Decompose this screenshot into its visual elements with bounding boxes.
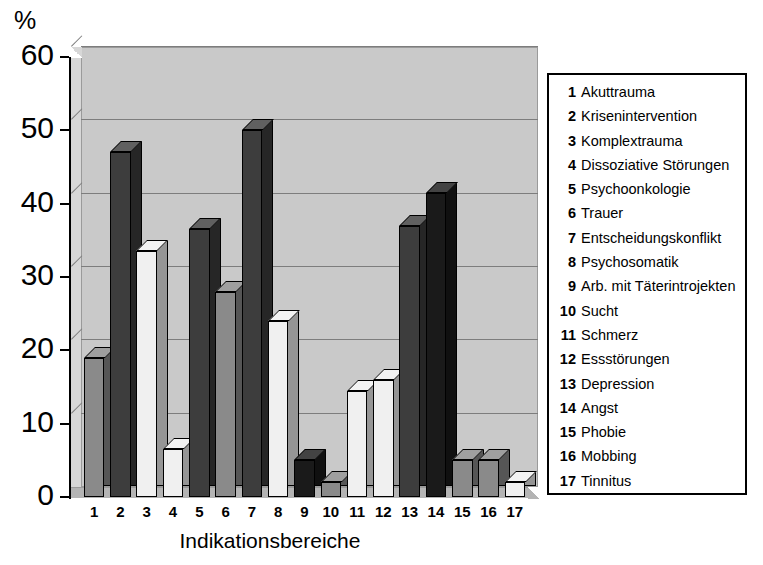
- legend-item-number: 17: [557, 473, 576, 489]
- bar-8[interactable]: [268, 321, 289, 497]
- legend-item-label: Phobie: [581, 424, 626, 440]
- legend-item-11[interactable]: 11Schmerz: [557, 327, 739, 351]
- bar-front-face: [452, 460, 473, 497]
- legend-item-label: Krisenintervention: [581, 108, 697, 124]
- bar-front-face: [373, 380, 394, 497]
- legend-item-3[interactable]: 3Komplextrauma: [557, 133, 739, 157]
- legend-item-number: 3: [557, 133, 576, 149]
- legend-item-label: Angst: [581, 400, 618, 416]
- legend-item-number: 7: [557, 230, 576, 246]
- legend-item-number: 1: [557, 84, 576, 100]
- legend-item-number: 12: [557, 351, 576, 367]
- bar-4[interactable]: [163, 449, 184, 497]
- bar-front-face: [136, 251, 157, 497]
- chart-figure: % 0102030405060 123456789101112131415161…: [0, 0, 763, 565]
- bar-front-face: [189, 229, 210, 497]
- legend-item-label: Dissoziative Störungen: [581, 157, 729, 173]
- legend-item-number: 11: [557, 327, 576, 343]
- legend-item-number: 9: [557, 278, 576, 294]
- legend-item-number: 8: [557, 254, 576, 270]
- legend-item-label: Trauer: [581, 205, 623, 221]
- bar-front-face: [268, 321, 289, 497]
- legend-item-6[interactable]: 6Trauer: [557, 205, 739, 229]
- legend-item-15[interactable]: 15Phobie: [557, 424, 739, 448]
- legend-box: 1Akuttrauma2Krisenintervention3Komplextr…: [547, 73, 747, 495]
- legend-item-label: Arb. mit Täterintrojekten: [581, 278, 735, 294]
- bar-1[interactable]: [84, 358, 105, 497]
- legend-item-4[interactable]: 4Dissoziative Störungen: [557, 157, 739, 181]
- legend-item-label: Psychosomatik: [581, 254, 679, 270]
- x-axis-title: Indikationsbereiche: [0, 529, 540, 553]
- legend-item-5[interactable]: 5Psychoonkologie: [557, 181, 739, 205]
- bar-front-face: [399, 226, 420, 497]
- legend-item-number: 15: [557, 424, 576, 440]
- bar-12[interactable]: [373, 380, 394, 497]
- legend-item-number: 16: [557, 448, 576, 464]
- bar-front-face: [163, 449, 184, 497]
- bar-3[interactable]: [136, 251, 157, 497]
- legend-item-14[interactable]: 14Angst: [557, 400, 739, 424]
- legend-item-9[interactable]: 9Arb. mit Täterintrojekten: [557, 278, 739, 302]
- legend-item-8[interactable]: 8Psychosomatik: [557, 254, 739, 278]
- bar-17[interactable]: [505, 482, 526, 497]
- legend-item-number: 14: [557, 400, 576, 416]
- legend-item-2[interactable]: 2Krisenintervention: [557, 108, 739, 132]
- legend-item-label: Tinnitus: [581, 473, 631, 489]
- x-axis-label-17: 17: [499, 503, 532, 520]
- legend-item-number: 10: [557, 303, 576, 319]
- legend-item-label: Depression: [581, 376, 654, 392]
- bar-front-face: [110, 152, 131, 497]
- legend-item-number: 2: [557, 108, 576, 124]
- legend-item-17[interactable]: 17Tinnitus: [557, 473, 739, 497]
- bar-front-face: [426, 193, 447, 497]
- legend-item-7[interactable]: 7Entscheidungskonflikt: [557, 230, 739, 254]
- bar-7[interactable]: [242, 130, 263, 497]
- legend-item-number: 13: [557, 376, 576, 392]
- legend-item-label: Psychoonkologie: [581, 181, 691, 197]
- legend-item-12[interactable]: 12Essstörungen: [557, 351, 739, 375]
- legend-item-label: Sucht: [581, 303, 618, 319]
- legend-item-label: Komplextrauma: [581, 133, 683, 149]
- bar-front-face: [294, 460, 315, 497]
- bar-front-face: [478, 460, 499, 497]
- legend-item-label: Entscheidungskonflikt: [581, 230, 721, 246]
- legend-item-16[interactable]: 16Mobbing: [557, 448, 739, 472]
- bar-front-face: [347, 391, 368, 497]
- bar-15[interactable]: [452, 460, 473, 497]
- legend-item-10[interactable]: 10Sucht: [557, 303, 739, 327]
- bar-front-face: [321, 482, 342, 497]
- bar-10[interactable]: [321, 482, 342, 497]
- bar-side-face: [446, 182, 457, 486]
- legend-item-13[interactable]: 13Depression: [557, 376, 739, 400]
- bar-front-face: [84, 358, 105, 497]
- bar-5[interactable]: [189, 229, 210, 497]
- legend-item-number: 5: [557, 181, 576, 197]
- bar-9[interactable]: [294, 460, 315, 497]
- bar-14[interactable]: [426, 193, 447, 497]
- legend-item-label: Schmerz: [581, 327, 638, 343]
- legend-item-number: 4: [557, 157, 576, 173]
- bar-16[interactable]: [478, 460, 499, 497]
- legend-item-1[interactable]: 1Akuttrauma: [557, 84, 739, 108]
- bar-6[interactable]: [215, 292, 236, 497]
- bar-front-face: [505, 482, 526, 497]
- legend-item-label: Essstörungen: [581, 351, 670, 367]
- bar-13[interactable]: [399, 226, 420, 497]
- bar-front-face: [242, 130, 263, 497]
- legend-item-label: Akuttrauma: [581, 84, 655, 100]
- legend-item-label: Mobbing: [581, 448, 637, 464]
- bar-front-face: [215, 292, 236, 497]
- legend-item-number: 6: [557, 205, 576, 221]
- bar-2[interactable]: [110, 152, 131, 497]
- bar-11[interactable]: [347, 391, 368, 497]
